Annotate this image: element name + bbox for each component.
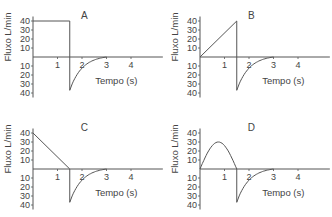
y-tick-label: 40 xyxy=(20,200,30,210)
inspiratory-flow-curve xyxy=(33,133,70,169)
x-axis-label: Tempo (s) xyxy=(95,187,137,198)
y-axis-label: Fluxo L/min xyxy=(169,12,180,61)
y-tick-label: 20 xyxy=(20,146,30,156)
x-axis-label: Tempo (s) xyxy=(95,75,137,86)
panel-title: A xyxy=(81,10,88,21)
x-tick-label: 1 xyxy=(222,60,227,70)
panel-title: B xyxy=(248,10,255,21)
inspiratory-flow-curve xyxy=(33,21,70,57)
y-tick-label: 40 xyxy=(187,200,197,210)
y-axis-label: Fluxo L/min xyxy=(2,124,13,173)
panel-title: D xyxy=(248,122,255,133)
y-tick-label: 40 xyxy=(187,88,197,98)
y-axis-label: Fluxo L/min xyxy=(169,124,180,173)
x-tick-label: 3 xyxy=(104,60,109,70)
y-tick-label: 10 xyxy=(20,43,30,53)
y-tick-label: 20 xyxy=(187,146,197,156)
y-tick-label: 40 xyxy=(20,16,30,26)
y-tick-label: 30 xyxy=(187,25,197,35)
x-tick-label: 4 xyxy=(128,60,133,70)
x-tick-label: 1 xyxy=(55,60,60,70)
y-tick-label: 40 xyxy=(187,16,197,26)
x-tick-label: 4 xyxy=(295,60,300,70)
x-tick-label: 3 xyxy=(104,172,109,182)
x-tick-label: 3 xyxy=(271,172,276,182)
inspiratory-flow-curve xyxy=(200,21,237,57)
y-tick-label: 20 xyxy=(187,34,197,44)
x-tick-label: 4 xyxy=(128,172,133,182)
y-tick-label: 40 xyxy=(20,128,30,138)
x-axis-label: Tempo (s) xyxy=(262,187,304,198)
y-tick-label: 30 xyxy=(20,137,30,147)
y-tick-label: 40 xyxy=(187,128,197,138)
panel-b: 10203040102030401234BTempo (s)Fluxo L/mi… xyxy=(169,10,330,98)
inspiratory-flow-curve xyxy=(200,142,237,169)
ventilator-flow-curves-figure: 10203040102030401234ATempo (s)Fluxo L/mi… xyxy=(0,0,332,217)
y-tick-label: 30 xyxy=(187,137,197,147)
panel-c: 10203040102030401234CTempo (s)Fluxo L/mi… xyxy=(2,122,163,210)
y-tick-label: 10 xyxy=(187,43,197,53)
y-tick-label: 40 xyxy=(20,88,30,98)
panel-a: 10203040102030401234ATempo (s)Fluxo L/mi… xyxy=(2,10,163,98)
x-tick-label: 3 xyxy=(271,60,276,70)
x-axis-label: Tempo (s) xyxy=(262,75,304,86)
y-tick-label: 20 xyxy=(20,34,30,44)
y-tick-label: 10 xyxy=(187,155,197,165)
panel-title: C xyxy=(81,122,88,133)
x-tick-label: 1 xyxy=(222,172,227,182)
y-tick-label: 30 xyxy=(20,25,30,35)
y-tick-label: 10 xyxy=(20,155,30,165)
panel-d: 10203040102030401234DTempo (s)Fluxo L/mi… xyxy=(169,122,330,210)
y-axis-label: Fluxo L/min xyxy=(2,12,13,61)
x-tick-label: 4 xyxy=(295,172,300,182)
x-tick-label: 1 xyxy=(55,172,60,182)
